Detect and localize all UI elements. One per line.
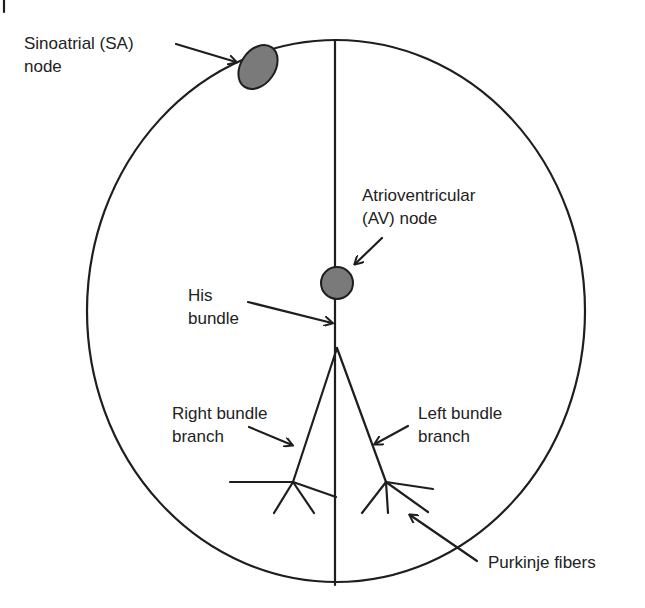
left-branch-arrow	[375, 426, 408, 444]
sa-label-line2: node	[24, 57, 62, 76]
av-label-line2: (AV) node	[362, 209, 437, 228]
right-purkinje-fibers	[230, 482, 336, 513]
left-purkinje-fibers	[362, 482, 433, 513]
lbb-label-line2: branch	[418, 427, 470, 446]
his-label-line1: His	[188, 286, 213, 305]
left-bundle-branch	[337, 348, 386, 482]
his-label-line2: bundle	[188, 309, 239, 328]
right-bundle-branch	[293, 348, 337, 482]
purkinje-label: Purkinje fibers	[488, 553, 596, 572]
sa-node	[230, 38, 285, 97]
lbb-label-line1: Left bundle	[418, 404, 502, 423]
av-node	[321, 267, 353, 299]
sa-arrow	[176, 44, 236, 62]
sa-label-line1: Sinoatrial (SA)	[24, 34, 134, 53]
right-branch-arrow	[249, 427, 292, 445]
purkinje-arrow	[410, 515, 477, 561]
conduction-diagram: Sinoatrial (SA) node Atrioventricular (A…	[0, 0, 645, 608]
av-label-line1: Atrioventricular	[362, 186, 476, 205]
rbb-label-line2: branch	[172, 427, 224, 446]
av-arrow	[355, 238, 382, 264]
rbb-label-line1: Right bundle	[172, 404, 267, 423]
his-arrow	[248, 302, 332, 323]
